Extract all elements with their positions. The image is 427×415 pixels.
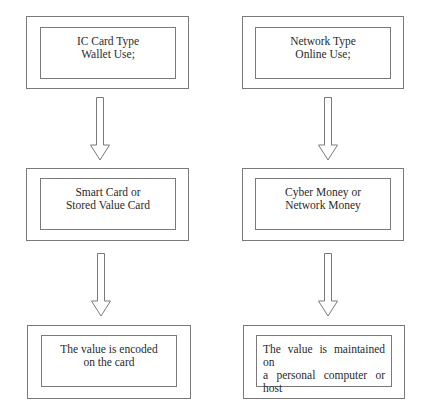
stored-value-card-label: Stored Value Card xyxy=(41,199,175,212)
down-arrow-icon xyxy=(316,253,340,317)
cyber-money-box: Cyber Money or Network Money xyxy=(255,178,391,230)
down-arrow-icon xyxy=(89,253,113,317)
ic-card-type-box: IC Card Type Wallet Use; xyxy=(40,27,176,79)
network-type-label: Network Type xyxy=(256,35,390,48)
value-encoded-line-2: on the card xyxy=(42,356,176,369)
value-encoded-box: The value is encoded on the card xyxy=(41,335,177,387)
online-use-label: Online Use; xyxy=(256,48,390,61)
smart-card-label: Smart Card or xyxy=(41,186,175,199)
value-encoded-line-1: The value is encoded xyxy=(42,343,176,356)
network-money-label: Network Money xyxy=(256,199,390,212)
cyber-money-label: Cyber Money or xyxy=(256,186,390,199)
network-type-box: Network Type Online Use; xyxy=(255,27,391,79)
value-maintained-line-1: The value is maintained on xyxy=(263,343,385,369)
wallet-use-label: Wallet Use; xyxy=(41,48,175,61)
down-arrow-icon xyxy=(88,97,112,161)
down-arrow-icon xyxy=(316,97,340,161)
value-maintained-line-2: a personal computer or xyxy=(263,369,385,382)
ic-card-type-label: IC Card Type xyxy=(41,35,175,48)
smart-card-box: Smart Card or Stored Value Card xyxy=(40,178,176,230)
value-maintained-line-3: host xyxy=(263,382,385,395)
value-maintained-box: The value is maintained on a personal co… xyxy=(256,335,392,387)
